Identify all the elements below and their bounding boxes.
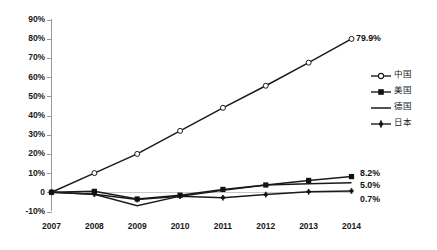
x-axis-label: 2008 — [71, 221, 117, 231]
legend-item-japan[interactable]: 日本 — [370, 114, 436, 130]
data-point-usa — [349, 174, 354, 179]
x-axis-label: 2009 — [114, 221, 160, 231]
x-axis-label: 2011 — [200, 221, 246, 231]
data-point-japan — [221, 195, 225, 201]
legend-label-germany: 德国 — [392, 101, 412, 111]
data-label-japan: 0.7% — [360, 194, 380, 204]
data-point-china — [349, 36, 354, 41]
data-point-china — [263, 83, 268, 88]
data-point-japan — [350, 188, 354, 194]
data-point-japan — [264, 192, 268, 198]
data-point-china — [135, 151, 140, 156]
x-axis-label: 2013 — [286, 221, 332, 231]
data-point-china — [178, 128, 183, 133]
legend: 中国 美国 德国 — [370, 66, 436, 130]
data-point-china — [220, 105, 225, 110]
data-point-japan — [307, 189, 311, 195]
legend-marker-filled-square-icon — [370, 84, 392, 96]
legend-label-usa: 美国 — [392, 85, 412, 95]
legend-label-japan: 日本 — [392, 117, 412, 127]
data-point-china — [92, 171, 97, 176]
legend-item-china[interactable]: 中国 — [370, 66, 436, 82]
legend-label-china: 中国 — [392, 69, 412, 79]
x-axis-label: 2012 — [243, 221, 289, 231]
legend-marker-plain-line-icon — [370, 100, 392, 112]
data-point-usa — [306, 178, 311, 183]
x-axis-label: 2010 — [157, 221, 203, 231]
data-point-china — [306, 60, 311, 65]
x-axis-label: 2014 — [329, 221, 375, 231]
x-axis-label: 2007 — [29, 221, 75, 231]
data-label-germany: 5.0% — [360, 180, 380, 190]
legend-item-germany[interactable]: 德国 — [370, 98, 436, 114]
data-label-china: 79.9% — [356, 33, 381, 43]
legend-marker-cross-icon — [370, 116, 392, 128]
legend-item-usa[interactable]: 美国 — [370, 82, 436, 98]
data-label-usa: 8.2% — [360, 168, 380, 178]
legend-marker-open-circle-icon — [370, 68, 392, 80]
line-chart: 90%80%70%60%50%40%30%20%10%0-10% 2007200… — [0, 0, 437, 250]
